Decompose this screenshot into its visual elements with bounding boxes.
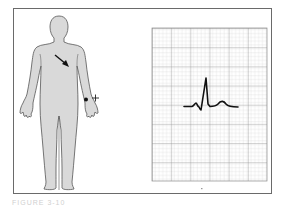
figure-illustration	[0, 0, 288, 206]
figure-caption: FIGURE 3-10	[12, 199, 65, 206]
wrist-electrode-icon	[84, 98, 88, 102]
grid-marker	[201, 188, 203, 189]
human-body-figure	[20, 16, 98, 190]
ecg-grid	[152, 28, 267, 181]
